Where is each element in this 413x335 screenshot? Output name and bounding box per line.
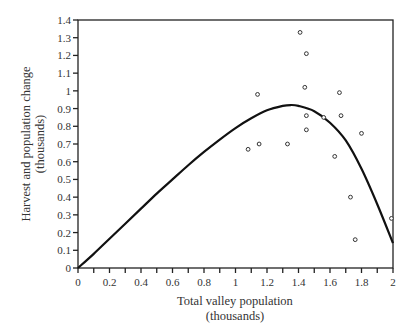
x-tick-label: 2 xyxy=(390,276,396,288)
y-tick-label: 0.9 xyxy=(57,103,71,115)
y-tick-label: 0.7 xyxy=(57,138,71,150)
y-tick-label: 0.8 xyxy=(57,120,71,132)
x-tick-label: 1.8 xyxy=(355,276,369,288)
y-tick-label: 0.4 xyxy=(57,191,71,203)
y-tick-label: 0.1 xyxy=(57,244,71,256)
plot-border xyxy=(78,20,393,268)
data-point xyxy=(349,195,353,199)
data-point xyxy=(353,238,357,242)
observed-harvest-points xyxy=(246,31,393,242)
x-tick-label: 1.6 xyxy=(323,276,337,288)
x-tick-label: 0.8 xyxy=(197,276,211,288)
harvest-population-chart: 00.20.40.60.811.21.41.61.82 00.10.20.30.… xyxy=(0,0,413,335)
x-tick-label: 0.2 xyxy=(103,276,117,288)
plot-frame xyxy=(78,20,393,268)
data-point xyxy=(333,155,337,159)
data-point xyxy=(390,217,394,221)
y-tick-label: 0.3 xyxy=(57,209,71,221)
x-tick-label: 0.4 xyxy=(134,276,148,288)
y-tick-label: 0.2 xyxy=(57,227,71,239)
y-tick-label: 1 xyxy=(66,85,72,97)
x-axis-units: (thousands) xyxy=(206,309,264,323)
y-tick-label: 0 xyxy=(66,262,72,274)
x-tick-label: 1.2 xyxy=(260,276,274,288)
x-tick-label: 0.6 xyxy=(166,276,180,288)
y-tick-label: 1.2 xyxy=(57,49,71,61)
y-tick-label: 1.1 xyxy=(57,67,71,79)
x-axis-title: Total valley population xyxy=(177,294,294,308)
x-axis: 00.20.40.60.811.21.41.61.82 xyxy=(75,268,396,288)
population-change-curve xyxy=(78,105,393,268)
data-point xyxy=(338,91,342,95)
y-axis: 00.10.20.30.40.50.60.70.80.911.11.21.31.… xyxy=(57,14,78,274)
y-axis-units: (thousands) xyxy=(33,115,47,173)
data-point xyxy=(246,147,250,151)
y-axis-title: Harvest and population change xyxy=(19,66,33,222)
data-point xyxy=(286,142,290,146)
data-point xyxy=(304,52,308,56)
data-point xyxy=(339,114,343,118)
y-tick-label: 1.3 xyxy=(57,32,71,44)
data-point xyxy=(304,128,308,132)
data-point xyxy=(298,31,302,35)
x-tick-label: 0 xyxy=(75,276,81,288)
data-point xyxy=(256,93,260,97)
data-point xyxy=(322,116,326,120)
data-point xyxy=(360,131,364,135)
y-tick-label: 0.5 xyxy=(57,173,71,185)
curve-path xyxy=(78,105,393,268)
y-tick-label: 0.6 xyxy=(57,156,71,168)
x-tick-label: 1.4 xyxy=(292,276,306,288)
x-tick-label: 1 xyxy=(233,276,239,288)
data-point xyxy=(304,114,308,118)
y-tick-label: 1.4 xyxy=(57,14,71,26)
data-point xyxy=(303,85,307,89)
data-point xyxy=(257,142,261,146)
